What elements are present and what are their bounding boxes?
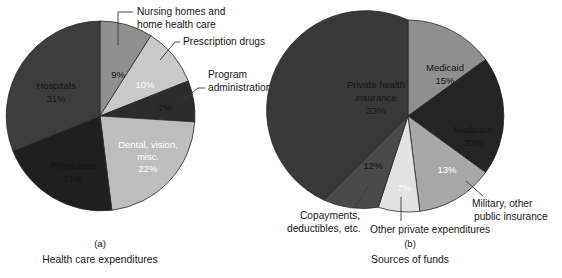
pie-chart-sources-of-funds: Medicaid 15% Medicare 20% 13% 7% 12% Pri… bbox=[267, 11, 548, 265]
pie-a-callout-prescription-line1: Prescription drugs bbox=[183, 36, 265, 47]
pie-b-callout-military-line2: public insurance bbox=[474, 211, 548, 222]
pie-b-label-military-pct: 13% bbox=[437, 164, 457, 175]
pie-b-callout-copay-line1: Copayments, bbox=[300, 210, 360, 221]
pie-a-callout-program-line1: Program bbox=[208, 69, 247, 80]
pie-b-label-private-line1: Private health bbox=[347, 79, 405, 90]
pie-a-panel-letter: (a) bbox=[94, 238, 106, 249]
pie-a-label-hospitals-name: Hospitals bbox=[36, 80, 75, 91]
pie-a-label-hospitals-pct: 31% bbox=[46, 93, 66, 104]
pie-b-label-medicaid-name: Medicaid bbox=[426, 62, 464, 73]
pie-a-caption: Health care expenditures bbox=[42, 254, 158, 265]
pie-b-label-medicare-pct: 20% bbox=[463, 137, 483, 148]
pie-b-callout-otherprivate-line1: Other private expenditures bbox=[370, 224, 490, 235]
pie-b-panel-letter: (b) bbox=[404, 238, 416, 249]
two-pie-chart-figure: 9% 10% 7% Dental, vision, misc. 22% Phys… bbox=[0, 0, 562, 278]
pie-a-callout-program-line2: administration bbox=[208, 82, 271, 93]
pie-a-callout-nursing-line2: home health care bbox=[137, 19, 216, 30]
pie-a-callout-nursing-line1: Nursing homes and bbox=[137, 6, 226, 17]
pie-a-label-physicians-name: Physicians bbox=[50, 160, 96, 171]
pie-a-label-nursing-pct: 9% bbox=[111, 69, 125, 80]
figure-svg: 9% 10% 7% Dental, vision, misc. 22% Phys… bbox=[0, 0, 562, 278]
pie-b-caption: Sources of funds bbox=[371, 254, 449, 265]
pie-b-label-otherprivate-pct: 7% bbox=[397, 182, 411, 193]
pie-b-callout-military-line1: Military, other bbox=[472, 198, 533, 209]
pie-b-label-medicare-name: Medicare bbox=[453, 124, 492, 135]
pie-b-label-copay-pct: 12% bbox=[363, 160, 383, 171]
pie-a-label-dental-pct: 22% bbox=[138, 163, 158, 174]
pie-a-label-physicians-pct: 21% bbox=[63, 173, 83, 184]
pie-a-label-program-pct: 7% bbox=[158, 102, 172, 113]
pie-b-callout-copay-line2: deductibles, etc. bbox=[287, 223, 361, 234]
pie-b-label-medicaid-pct: 15% bbox=[435, 75, 455, 86]
pie-chart-health-care-expenditures: 9% 10% 7% Dental, vision, misc. 22% Phys… bbox=[6, 6, 271, 265]
pie-b-label-private-pct: 33% bbox=[366, 105, 386, 116]
pie-a-label-dental-line1: Dental, vision, bbox=[118, 139, 178, 150]
pie-a-label-prescription-pct: 10% bbox=[135, 79, 155, 90]
pie-a-label-dental-line2: misc. bbox=[137, 151, 159, 162]
pie-b-label-private-line2: insurance bbox=[355, 92, 396, 103]
